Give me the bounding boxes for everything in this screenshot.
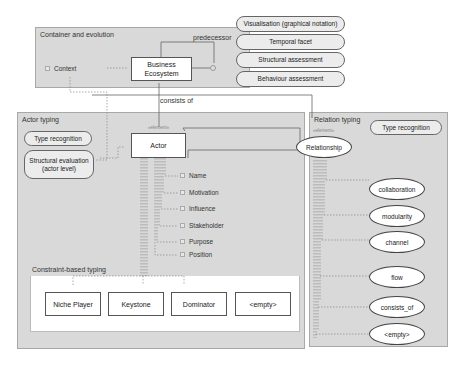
attribute-purpose: Purpose: [180, 238, 213, 245]
relation-consists-of[interactable]: consists_of: [369, 296, 425, 318]
attribute-dot-icon: [180, 252, 185, 257]
attribute-dot-icon: [180, 223, 185, 228]
consists-of-label: consists of: [160, 97, 193, 104]
relationship-stereotype: «element»: [313, 128, 334, 133]
relationship-node[interactable]: Relationship: [296, 136, 352, 158]
facet-behaviour-assessment[interactable]: Behaviour assessment: [236, 71, 345, 87]
predecessor-port-icon: [210, 65, 216, 71]
attribute-dot-icon: [45, 66, 50, 71]
constraint-niche-player[interactable]: Niche Player: [45, 292, 101, 316]
constraint-keystone[interactable]: Keystone: [108, 292, 164, 316]
actor-type-recognition[interactable]: Type recognition: [24, 131, 92, 146]
actor-stereotype: «element»: [148, 125, 169, 130]
attribute-dot-icon: [180, 239, 185, 244]
context-attribute: Context: [45, 64, 76, 72]
constraint-empty[interactable]: <empty>: [235, 292, 291, 316]
relation-empty[interactable]: <empty>: [369, 323, 425, 345]
facet-temporal[interactable]: Temporal facet: [236, 34, 345, 50]
relation-flow[interactable]: flow: [369, 266, 425, 288]
attribute-dot-icon: [180, 206, 185, 211]
facet-structural-assessment[interactable]: Structural assessment: [236, 52, 345, 68]
constraint-dominator[interactable]: Dominator: [171, 292, 227, 316]
relation-modularity[interactable]: modularity: [369, 205, 425, 227]
facet-visualisation[interactable]: Visualisation (graphical notation): [236, 16, 345, 32]
attribute-stakeholder: Stakeholder: [180, 222, 224, 229]
relation-type-recognition[interactable]: Type recognition: [370, 120, 442, 135]
attribute-dot-icon: [180, 173, 185, 178]
attribute-position: Position: [180, 251, 212, 258]
business-ecosystem-node[interactable]: Business Ecosystem: [131, 57, 192, 81]
attribute-name: Name: [180, 172, 206, 179]
attribute-motivation: Motivation: [180, 189, 219, 196]
structural-evaluation[interactable]: Structural evaluation (actor level): [24, 150, 94, 179]
attribute-dot-icon: [180, 190, 185, 195]
relation-collaboration[interactable]: collaboration: [369, 178, 425, 200]
predecessor-label: predecessor: [193, 34, 232, 41]
attribute-influence: Influence: [180, 205, 215, 212]
relation-channel[interactable]: channel: [369, 231, 425, 253]
actor-node[interactable]: Actor: [131, 133, 186, 158]
